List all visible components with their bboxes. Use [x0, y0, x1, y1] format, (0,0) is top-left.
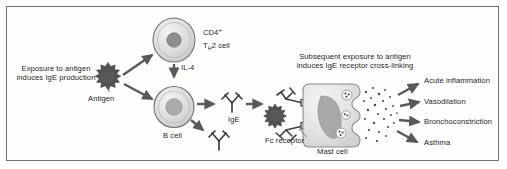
- outcome-label-2: Bronchoconstriction: [424, 117, 492, 126]
- th2-rest: 2 cell: [212, 41, 230, 50]
- b-cell-graphic: [154, 87, 194, 128]
- arrow-outcome-3: [397, 131, 417, 142]
- fc-receptor-label: Fc receptor: [265, 136, 304, 145]
- arrow-antigen-to-th2: [123, 55, 152, 75]
- mast-cell-label: Mast cell: [317, 147, 348, 156]
- ige-antibody-lower: [209, 131, 229, 150]
- cd4-label: CD4+: [203, 28, 222, 37]
- antigen-label: Antigen: [88, 94, 114, 103]
- exposure-caption: Exposure to antigen induces IgE producti…: [14, 64, 98, 82]
- subsequent-caption-line1: Subsequent exposure to antigen: [272, 52, 438, 61]
- outcome-label-3: Asthma: [424, 138, 450, 147]
- arrow-outcome-1: [400, 102, 419, 106]
- released-granules: [363, 87, 398, 142]
- cd4-plus-sign: +: [218, 26, 222, 33]
- arrow-bcell-to-antibody: [191, 120, 203, 130]
- subsequent-caption-line2: induces IgE receptor cross-linking: [272, 61, 438, 70]
- ige-antibody-upper: [222, 93, 242, 112]
- outcome-label-0: Acute inflammation: [424, 76, 490, 85]
- figure-canvas: Exposure to antigen induces IgE producti…: [0, 0, 507, 169]
- th2-t: T: [203, 41, 208, 50]
- arrow-outcome-2: [399, 120, 419, 122]
- exposure-caption-line1: Exposure to antigen: [14, 64, 98, 73]
- th2-label: TH2 cell: [203, 41, 230, 51]
- ige-label: IgE: [228, 115, 240, 124]
- il4-label: IL-4: [181, 63, 194, 72]
- bcell-label: B cell: [163, 131, 182, 140]
- antigen-particle-right: [264, 104, 287, 128]
- cd4-th2-cell-graphic: [153, 18, 195, 62]
- subsequent-caption: Subsequent exposure to antigen induces I…: [272, 52, 438, 70]
- antigen-particle-left: [95, 63, 121, 90]
- arrow-outcome-0: [398, 84, 418, 95]
- outcome-label-1: Vasodilation: [424, 97, 466, 106]
- exposure-caption-line2: induces IgE production: [14, 73, 98, 82]
- th2-subscript: H: [208, 45, 212, 51]
- arrow-antigen-to-bcell: [124, 84, 152, 99]
- cd4-text: CD4: [203, 28, 218, 37]
